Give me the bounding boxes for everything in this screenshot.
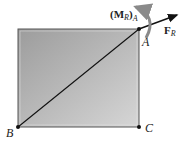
moment-label: (MR)A [110,8,138,23]
label-b: B [6,126,14,140]
label-a: A [141,35,150,49]
force-label: FR [164,24,176,38]
label-c: C [145,121,154,135]
diagram-canvas: (MR)A FR A B C [0,0,191,141]
point-c [137,125,141,129]
force-arrow-icon [139,15,177,29]
point-b [16,125,20,129]
